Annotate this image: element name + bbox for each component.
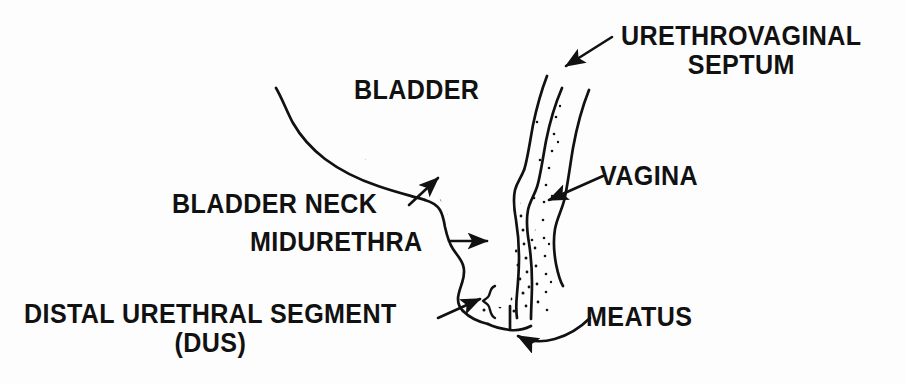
posterior-vaginal-wall	[554, 90, 589, 286]
posterior-urethral-wall	[514, 76, 547, 318]
urethrovaginal-septum-and-vaginal-walls	[488, 76, 589, 330]
label-vagina: VAGINA	[600, 162, 698, 191]
label-distal-urethral-segment: DISTAL URETHRAL SEGMENT (DUS)	[24, 300, 397, 358]
label-distal-urethral-segment-line2: (DUS)	[24, 329, 397, 358]
label-distal-urethral-segment-line1: DISTAL URETHRAL SEGMENT	[24, 299, 397, 329]
distal-urethral-anterior-edge	[463, 311, 488, 324]
anterior-urethral-wall	[425, 200, 464, 311]
label-urethrovaginal-septum-line1: URETHROVAGINAL	[621, 21, 861, 51]
label-bladder: BLADDER	[354, 76, 479, 105]
distal-urethral-segment-brace	[483, 286, 495, 318]
vagina-stipple-shading	[532, 97, 562, 312]
meatus-leader	[518, 318, 590, 341]
label-bladder-neck: BLADDER NECK	[172, 190, 377, 219]
urethrovaginal-septum-leader	[566, 37, 612, 66]
anatomical-figure: URETHROVAGINAL SEPTUM BLADDER VAGINA BLA…	[0, 0, 905, 384]
label-midurethra: MIDURETHRA	[250, 228, 423, 257]
label-urethrovaginal-septum: URETHROVAGINAL SEPTUM	[621, 22, 861, 80]
label-meatus: MEATUS	[586, 303, 692, 332]
label-urethrovaginal-septum-line2: SEPTUM	[621, 51, 861, 80]
vagina-leader	[549, 176, 603, 200]
